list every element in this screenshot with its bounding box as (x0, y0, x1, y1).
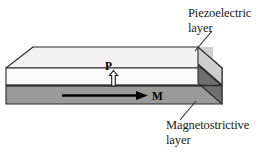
magnetostrictive-layer-label: Magnetostrictive layer (166, 118, 249, 147)
polarization-vector-label: P (105, 60, 112, 72)
piezoelectric-top-face (6, 47, 222, 68)
piezoelectric-label-line1: Piezoelectric (188, 6, 251, 20)
piezoelectric-label-line2: layer (188, 21, 251, 36)
magnetostrictive-label-line2: layer (166, 133, 249, 148)
magnetostrictive-label-line1: Magnetostrictive (166, 118, 249, 132)
magnetization-vector-label: M (152, 90, 163, 102)
piezoelectric-layer-label: Piezoelectric layer (188, 6, 251, 35)
figure-root: Piezoelectric layer Magnetostrictive lay… (0, 0, 267, 154)
